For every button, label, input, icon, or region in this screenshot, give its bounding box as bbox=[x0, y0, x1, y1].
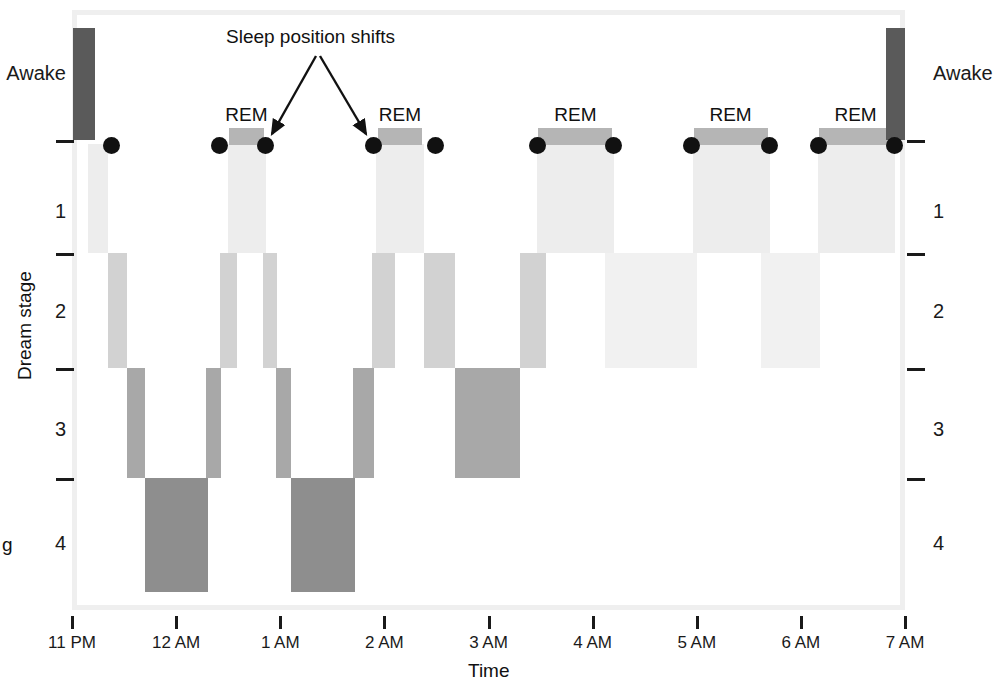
y-axis-tick-left bbox=[56, 478, 74, 481]
y-axis-tick-left bbox=[56, 140, 74, 143]
position-shift-marker-dot bbox=[103, 137, 120, 154]
rem-label: REM bbox=[547, 104, 603, 126]
x-axis-label: 7 AM bbox=[860, 633, 950, 653]
sleep-stage-bar bbox=[819, 128, 893, 145]
x-axis-tick bbox=[904, 616, 907, 629]
y-axis-label-right: 1 bbox=[933, 200, 944, 223]
sleep-stage-bar bbox=[520, 253, 546, 368]
y-axis-tick-left bbox=[56, 253, 74, 256]
rem-label: REM bbox=[703, 104, 759, 126]
cropped-glyph-artifact: g bbox=[2, 534, 13, 556]
x-axis-tick bbox=[383, 616, 386, 629]
sleep-hypnogram-chart: REMREMREMREMREMAwakeAwake1122334411 PM12… bbox=[0, 0, 993, 691]
annotation-sleep-position-shifts: Sleep position shifts bbox=[226, 26, 395, 48]
x-axis-tick bbox=[800, 616, 803, 629]
x-axis-tick bbox=[71, 616, 74, 629]
position-shift-marker-dot bbox=[427, 137, 444, 154]
sleep-stage-bar bbox=[127, 368, 145, 478]
x-axis-tick bbox=[696, 616, 699, 629]
sleep-stage-bar bbox=[263, 253, 278, 368]
sleep-stage-bar bbox=[228, 144, 265, 253]
x-axis-tick bbox=[488, 616, 491, 629]
sleep-stage-bar bbox=[88, 144, 108, 253]
sleep-stage-bar bbox=[693, 144, 770, 253]
x-axis-tick bbox=[279, 616, 282, 629]
position-shift-marker-dot bbox=[365, 137, 382, 154]
position-shift-marker-dot bbox=[529, 137, 546, 154]
position-shift-marker-dot bbox=[810, 137, 827, 154]
y-axis-tick-right bbox=[907, 368, 925, 371]
x-axis-label: 6 AM bbox=[756, 633, 846, 653]
y-axis-tick-left bbox=[56, 368, 74, 371]
sleep-stage-bar bbox=[378, 128, 422, 145]
x-axis-label: 3 AM bbox=[444, 633, 534, 653]
sleep-stage-bar bbox=[372, 253, 395, 368]
y-axis-label-right: 3 bbox=[933, 418, 944, 441]
y-axis-label-left: 3 bbox=[0, 418, 66, 441]
y-axis-tick-right bbox=[907, 140, 925, 143]
y-axis-label-right: 4 bbox=[933, 532, 944, 555]
x-axis-label: 12 AM bbox=[131, 633, 221, 653]
y-axis-title: Dream stage bbox=[14, 271, 36, 380]
sleep-stage-bar bbox=[220, 253, 237, 368]
sleep-stage-bar bbox=[291, 478, 356, 592]
position-shift-marker-dot bbox=[605, 137, 622, 154]
sleep-stage-bar bbox=[276, 368, 291, 478]
sleep-stage-bar bbox=[108, 253, 126, 368]
sleep-stage-bar bbox=[376, 144, 424, 253]
position-shift-marker-dot bbox=[211, 137, 228, 154]
position-shift-marker-dot bbox=[886, 137, 903, 154]
sleep-stage-bar bbox=[455, 368, 520, 478]
x-axis-label: 1 AM bbox=[235, 633, 325, 653]
position-shift-marker-dot bbox=[683, 137, 700, 154]
x-axis-tick bbox=[592, 616, 595, 629]
x-axis-label: 2 AM bbox=[339, 633, 429, 653]
rem-label: REM bbox=[828, 104, 884, 126]
x-axis-title: Time bbox=[468, 660, 510, 682]
sleep-stage-bar bbox=[537, 144, 614, 253]
sleep-stage-bar bbox=[353, 368, 374, 478]
sleep-stage-bar bbox=[206, 368, 221, 478]
position-shift-marker-dot bbox=[761, 137, 778, 154]
sleep-stage-bar bbox=[145, 478, 209, 592]
sleep-stage-bar bbox=[73, 28, 95, 140]
x-axis-label: 4 AM bbox=[548, 633, 638, 653]
sleep-stage-bar bbox=[538, 128, 612, 145]
sleep-stage-bar bbox=[886, 28, 905, 140]
y-axis-label-right: Awake bbox=[933, 62, 993, 85]
y-axis-tick-right bbox=[907, 478, 925, 481]
sleep-stage-bar bbox=[818, 144, 895, 253]
y-axis-label-right: 2 bbox=[933, 300, 944, 323]
y-axis-label-left: Awake bbox=[0, 62, 66, 85]
sleep-stage-bar bbox=[694, 128, 768, 145]
y-axis-tick-right bbox=[907, 253, 925, 256]
rem-label: REM bbox=[218, 104, 274, 126]
sleep-stage-bar bbox=[424, 253, 455, 368]
sleep-stage-bar bbox=[761, 253, 819, 368]
x-axis-label: 5 AM bbox=[652, 633, 742, 653]
x-axis-tick bbox=[175, 616, 178, 629]
rem-label: REM bbox=[372, 104, 428, 126]
sleep-stage-bar bbox=[605, 253, 697, 368]
y-axis-label-left: 1 bbox=[0, 200, 66, 223]
position-shift-marker-dot bbox=[257, 137, 274, 154]
x-axis-label: 11 PM bbox=[27, 633, 117, 653]
